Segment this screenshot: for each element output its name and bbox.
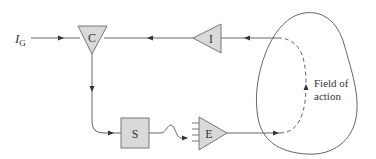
node-s-label: S <box>132 127 139 141</box>
arrow-icon <box>244 36 250 41</box>
diagram-canvas: C I S E IG Field of action <box>0 0 376 159</box>
field-of-action-label-line2: action <box>314 90 341 102</box>
node-i-label: I <box>209 32 213 46</box>
node-c-label: C <box>88 31 96 45</box>
arrow-icon <box>182 136 188 141</box>
node-e <box>199 117 227 150</box>
input-label: IG <box>14 31 26 48</box>
arrow-icon <box>304 84 309 90</box>
arrow-icon <box>58 36 64 41</box>
field-of-action-label-line1: Field of <box>314 77 349 89</box>
node-e-label: E <box>205 127 212 141</box>
wavy-signal-line <box>149 125 187 138</box>
diagram-svg: C I S E IG Field of action <box>0 0 376 159</box>
arrow-icon <box>108 131 114 136</box>
arrow-icon <box>147 36 153 41</box>
node-i <box>193 24 221 53</box>
arrow-icon <box>90 86 95 92</box>
field-effect-dashed-path <box>280 38 306 133</box>
control-line <box>92 54 121 133</box>
arrow-icon <box>273 131 279 136</box>
